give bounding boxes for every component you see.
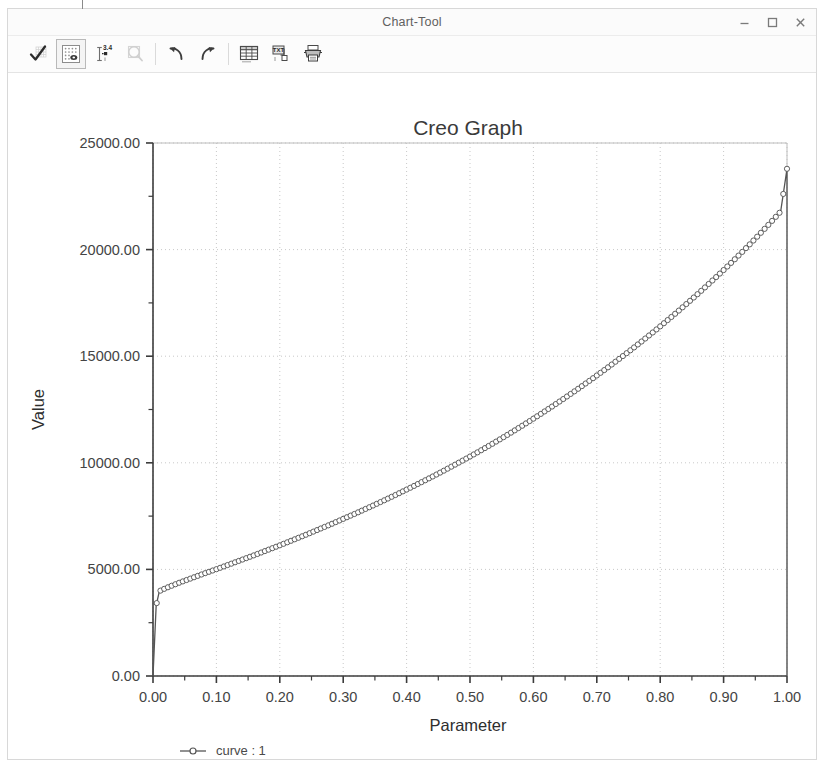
undo-arrow-icon: [164, 42, 188, 66]
magnifier-icon: [123, 42, 147, 66]
curve-point: [154, 600, 159, 605]
table-button[interactable]: [234, 39, 264, 69]
accept-button[interactable]: [24, 39, 54, 69]
y-tick-label: 15000.00: [80, 348, 140, 364]
x-tick-label: 0.70: [583, 689, 611, 705]
close-icon: [794, 16, 807, 29]
x-tick-label: 0.60: [519, 689, 547, 705]
y-tick-label: 10000.00: [80, 455, 140, 471]
redo-button[interactable]: [193, 39, 223, 69]
window-controls: [737, 9, 808, 35]
axes: [146, 143, 787, 683]
y-tick-label: 20000.00: [80, 242, 140, 258]
toolbar-separator-2: [228, 43, 229, 65]
legend-marker-icon: [190, 748, 196, 754]
x-tick-label: 0.20: [266, 689, 294, 705]
legend-entry-label[interactable]: curve : 1: [216, 743, 266, 758]
toolbar-separator-1: [155, 43, 156, 65]
x-tick-label: 0.30: [329, 689, 357, 705]
checkmark-icon: [27, 42, 51, 66]
window-titlebar: Chart-Tool: [8, 9, 816, 36]
minimize-icon: [738, 16, 751, 29]
y-tick-label: 5000.00: [88, 561, 140, 577]
table-icon: [237, 42, 261, 66]
redo-arrow-icon: [196, 42, 220, 66]
maximize-icon: [766, 16, 779, 29]
chart-title: Creo Graph: [413, 116, 523, 139]
y-tick-label: 0.00: [112, 668, 140, 684]
x-tick-label: 1.00: [773, 689, 801, 705]
svg-text:3.4: 3.4: [103, 44, 112, 51]
svg-text:TXT: TXT: [273, 47, 285, 53]
y-tick-label: 25000.00: [80, 135, 140, 151]
curve-point: [781, 191, 786, 196]
window-title: Chart-Tool: [382, 15, 442, 29]
x-tick-label: 0.50: [456, 689, 484, 705]
print-button[interactable]: [298, 39, 328, 69]
curve-point: [777, 210, 782, 215]
minimize-button[interactable]: [737, 15, 752, 30]
x-tick-label: 0.10: [202, 689, 230, 705]
grid-dots-icon: [59, 42, 83, 66]
gridlines: [153, 143, 787, 676]
text-export-icon: TXT: [269, 42, 293, 66]
x-tick-label: 0.00: [139, 689, 167, 705]
zoom-button[interactable]: [120, 39, 150, 69]
x-tick-label: 0.40: [392, 689, 420, 705]
x-tick-label: 0.80: [646, 689, 674, 705]
creo-graph-plot: Creo Graph 0.000.100.200.300.400.500.600…: [8, 73, 816, 759]
chart-toolbar: 3.4: [8, 36, 816, 73]
undo-button[interactable]: [161, 39, 191, 69]
printer-icon: [301, 42, 325, 66]
axis-scale-icon: 3.4: [91, 42, 115, 66]
close-button[interactable]: [793, 15, 808, 30]
chart-legend[interactable]: curve : 1: [180, 743, 266, 758]
y-axis-title: Value: [29, 389, 47, 430]
tick-labels: 0.000.100.200.300.400.500.600.700.800.90…: [80, 135, 802, 705]
x-axis-title: Parameter: [429, 716, 507, 734]
show-grid-button[interactable]: [56, 39, 86, 69]
chart-tool-window: Chart-Tool: [7, 8, 817, 760]
x-tick-label: 0.90: [709, 689, 737, 705]
application-root: Chart-Tool: [0, 0, 824, 776]
export-text-button[interactable]: TXT: [266, 39, 296, 69]
maximize-button[interactable]: [765, 15, 780, 30]
curve-point: [784, 166, 789, 171]
axis-scale-button[interactable]: 3.4: [88, 39, 118, 69]
data-series: [153, 166, 790, 676]
chart-canvas[interactable]: Creo Graph 0.000.100.200.300.400.500.600…: [8, 73, 816, 759]
top-edge-mark: [82, 0, 83, 9]
